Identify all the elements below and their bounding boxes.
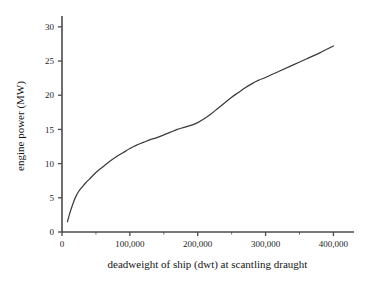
y-axis-tick-label: 25 <box>45 56 55 66</box>
x-axis-title: deadweight of ship (dwt) at scantling dr… <box>108 258 308 271</box>
x-axis-tick-label: 400,000 <box>319 239 349 249</box>
y-axis-tick-label: 10 <box>45 159 55 169</box>
x-axis-tick-label: 0 <box>60 239 65 249</box>
x-axis-tick-label: 100,000 <box>115 239 145 249</box>
y-axis-tick-label: 5 <box>50 193 55 203</box>
y-axis-tick-label: 20 <box>45 90 55 100</box>
y-axis-title: engine power (MW) <box>14 81 27 171</box>
chart-figure: 051015202530 0100,000200,000300,000400,0… <box>0 0 365 287</box>
line-chart-svg: 051015202530 0100,000200,000300,000400,0… <box>0 0 365 287</box>
y-axis-tick-label: 0 <box>50 227 55 237</box>
y-axis-tick-label: 30 <box>45 22 55 32</box>
x-axis-tick-label: 300,000 <box>251 239 281 249</box>
x-axis-tick-label: 200,000 <box>183 239 213 249</box>
y-axis-tick-label: 15 <box>45 125 55 135</box>
